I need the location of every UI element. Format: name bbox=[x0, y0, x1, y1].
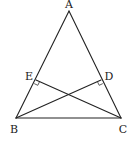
right-angle-mark-e bbox=[34, 82, 39, 86]
segment-ac bbox=[69, 11, 121, 118]
segment-ce bbox=[36, 80, 121, 118]
label-a: A bbox=[64, 0, 74, 11]
label-b: B bbox=[10, 123, 18, 136]
segment-ab bbox=[16, 11, 69, 118]
right-angle-mark-d bbox=[97, 82, 102, 86]
label-e: E bbox=[25, 70, 33, 83]
segment-bd bbox=[16, 80, 101, 118]
triangle-figure: A B C D E bbox=[0, 0, 136, 143]
label-c: C bbox=[119, 123, 127, 136]
geometry-diagram: A B C D E bbox=[0, 0, 136, 143]
label-d: D bbox=[105, 70, 114, 83]
